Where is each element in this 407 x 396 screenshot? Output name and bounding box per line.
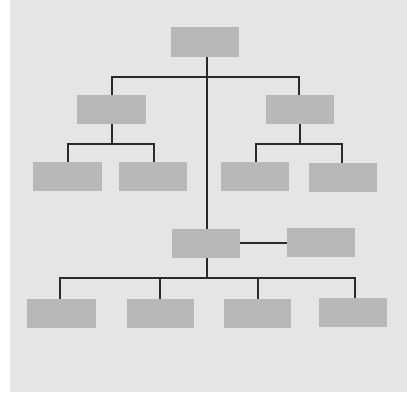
connector-trunk <box>206 57 208 229</box>
connector-left-stem <box>111 124 113 143</box>
org-node-bottom-4 <box>319 298 387 327</box>
connector-bottom-drop-1 <box>59 277 61 299</box>
connector-bottom-drop-2 <box>159 277 161 299</box>
org-node-left-mgr <box>77 95 146 124</box>
org-node-bottom-3 <box>224 299 291 328</box>
org-node-right-sub-2 <box>309 163 377 192</box>
org-chart-panel <box>10 0 407 392</box>
connector-right-bus <box>255 143 343 145</box>
connector-right-drop-1 <box>255 143 257 162</box>
org-node-right-mgr <box>266 95 334 124</box>
connector-center-stem <box>206 258 208 278</box>
org-node-assistant <box>287 228 355 257</box>
org-node-bottom-2 <box>127 299 194 328</box>
connector-bottom-drop-4 <box>354 277 356 298</box>
connector-right-drop-2 <box>341 143 343 163</box>
connector-l1-drop-left <box>111 76 113 95</box>
connector-left-drop-2 <box>153 143 155 162</box>
org-node-root <box>171 27 239 57</box>
connector-bottom-bus <box>59 277 356 279</box>
connector-bottom-drop-3 <box>257 277 259 299</box>
connector-left-bus <box>67 143 155 145</box>
connector-right-stem <box>299 124 301 143</box>
org-node-left-sub-1 <box>33 162 102 191</box>
org-node-bottom-1 <box>27 299 96 328</box>
connector-left-drop-1 <box>67 143 69 162</box>
connector-l1-drop-right <box>298 76 300 95</box>
connector-assistant-link <box>240 242 287 244</box>
org-node-center-mgr <box>172 229 240 258</box>
org-node-left-sub-2 <box>119 162 187 191</box>
org-node-right-sub-1 <box>221 162 289 191</box>
connector-l1-bus <box>111 76 300 78</box>
